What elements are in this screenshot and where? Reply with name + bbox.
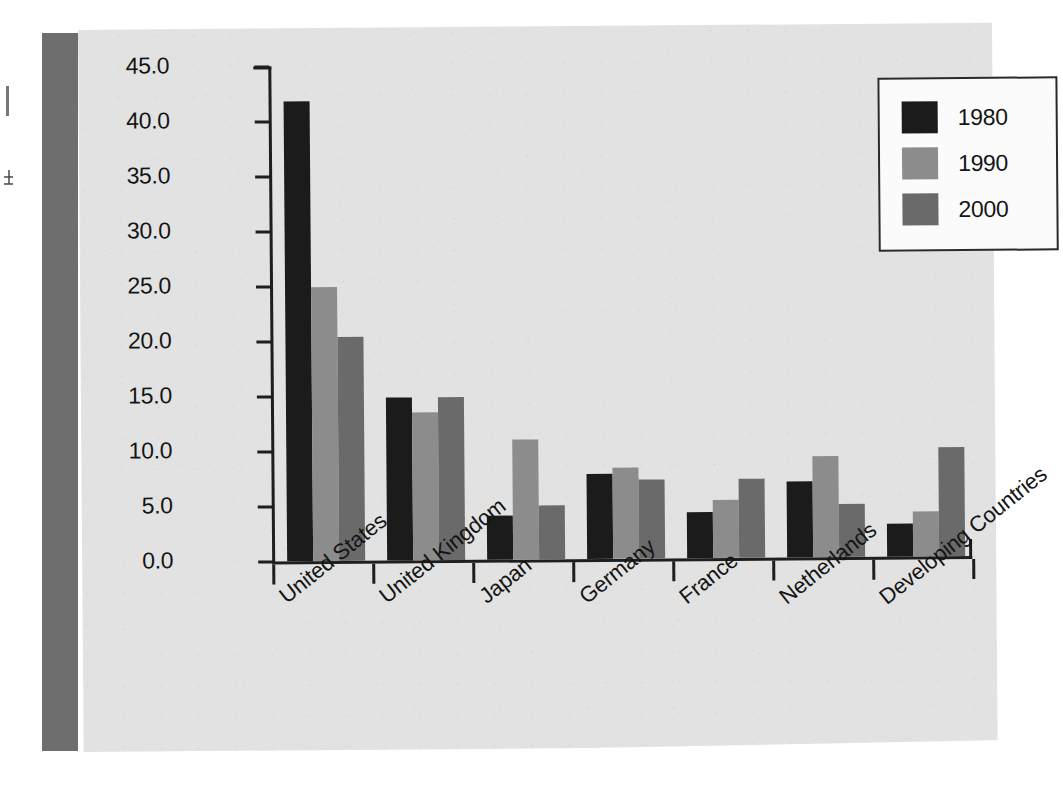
legend-label: 1980 [958,103,1008,130]
bar-2000 [539,505,565,559]
bar-2000 [739,478,766,557]
scan-margin-artifacts [0,0,42,800]
x-axis-tick [372,564,375,584]
bar-group [483,64,565,560]
y-axis-tick [258,560,273,563]
x-axis-tick [272,564,275,584]
x-axis-ticks [173,31,973,37]
bar-group [783,62,865,558]
y-axis-tick-label: 45.0 [95,52,169,80]
bar-1990 [512,440,539,560]
legend-swatch [902,193,938,225]
y-axis-tick-label: 40.0 [96,107,170,135]
book-spine-shadow [42,33,78,751]
bar-1980 [887,523,913,556]
x-axis-tick [572,562,575,582]
y-axis-tick [258,505,273,508]
legend-entry: 1990 [902,147,1008,180]
y-axis-tick-label: 35.0 [96,162,170,190]
y-axis-tick-label: 20.0 [97,327,171,355]
x-axis-tick [672,561,675,581]
legend-swatch [902,147,938,179]
y-axis-tick [255,175,270,178]
bar-1980 [284,101,314,561]
legend-label: 1990 [958,149,1008,176]
x-axis-category-labels: United StatesUnited KingdomJapanGermanyF… [272,579,1033,765]
y-axis-ticks [173,31,973,37]
y-axis-tick [255,120,270,123]
bar-1980 [587,474,614,559]
x-axis-tick [872,560,875,580]
y-axis-tick [256,285,271,288]
x-axis-tick [972,559,975,579]
chart-legend: 198019902000 [877,76,1058,251]
bar-1980 [787,481,814,557]
bar-group [583,63,665,559]
y-axis-tick-label: 0.0 [99,547,173,575]
y-axis-tick [256,230,271,233]
bar-group [683,63,765,559]
y-axis-tick-label: 15.0 [98,382,172,410]
legend-entry: 2000 [902,193,1008,226]
bar-1990 [311,287,339,561]
bar-1980 [386,398,413,561]
margin-artifact-mark [8,170,10,184]
y-axis-tick [257,450,272,453]
y-axis-tick-labels: 45.040.035.030.025.020.015.010.05.00.0 [95,37,173,598]
legend-label: 2000 [958,195,1008,222]
margin-artifact-mark [6,86,9,116]
bar-1980 [687,512,713,558]
bar-groups [268,61,972,561]
bar-group [383,65,465,561]
y-axis-tick [256,340,271,343]
margin-artifact-mark [4,183,13,185]
bar-1990 [412,412,439,561]
legend-swatch [902,101,938,133]
x-axis-tick [472,563,475,583]
y-axis-tick-label: 30.0 [96,217,170,245]
y-axis-tick [257,395,272,398]
y-axis-tick [254,65,269,68]
legend-entry: 1980 [902,101,1008,134]
y-axis-tick-label: 10.0 [98,437,172,465]
bar-group [283,66,365,562]
chart-figure: 45.040.035.030.025.020.015.010.05.00.0 U… [78,23,998,752]
y-axis-tick-label: 5.0 [99,492,173,520]
x-axis-tick [772,561,775,581]
plot-area: 45.040.035.030.025.020.015.010.05.00.0 U… [173,31,978,737]
y-axis-tick-label: 25.0 [97,272,171,300]
